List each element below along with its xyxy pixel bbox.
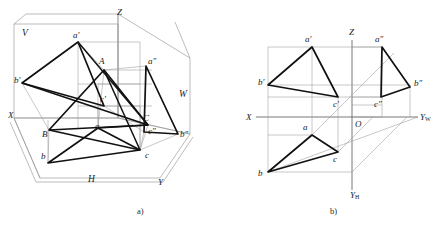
label-axis-x-b: X xyxy=(245,112,252,122)
label-axis-yh-b: YH xyxy=(350,190,360,201)
connector-B-to-c-top xyxy=(49,130,140,150)
label-axis-z-b: Z xyxy=(349,27,355,37)
connector-b-front-to-C xyxy=(22,83,148,125)
label-point-b-side-a: b″ xyxy=(180,129,189,139)
label-plane-h: H xyxy=(87,174,96,184)
label-point-A-space: A xyxy=(98,56,105,66)
label-point-c-top-b: c xyxy=(333,154,337,164)
label-point-c-side-b: c″ xyxy=(374,99,382,109)
caption-a: a) xyxy=(137,206,144,216)
label-point-a-front-b: a′ xyxy=(305,34,313,44)
technical-drawing-canvas: X Y Z V W H A B C a′ b′ c′ a b c a″ xyxy=(0,0,442,236)
label-point-b-front-a: b′ xyxy=(14,75,22,85)
label-origin-o: O xyxy=(355,119,362,129)
label-plane-w: W xyxy=(179,89,188,99)
panel-b-point-labels: a′ b′ c′ a″ b″ c″ a b c xyxy=(258,34,423,178)
label-point-a-front-a: a′ xyxy=(73,30,81,40)
panel-a-axis-labels: X Y Z xyxy=(7,7,164,187)
label-axis-yh-subscript: H xyxy=(355,195,360,201)
label-point-c-front-a: c′ xyxy=(100,94,107,104)
label-axis-yw-b: YW xyxy=(420,112,431,123)
label-axis-x-a: X xyxy=(7,110,14,120)
label-point-C-space: C xyxy=(143,113,150,123)
label-point-c-front-b: c′ xyxy=(333,99,340,109)
caption-b: b) xyxy=(330,206,337,216)
label-point-b-top-b: b xyxy=(258,168,263,178)
plane-w-edge-top xyxy=(175,22,190,58)
triangle-side-projection-b xyxy=(381,47,410,97)
label-point-B-space: B xyxy=(42,129,48,139)
label-point-b-top-a: b xyxy=(41,151,46,161)
label-point-c-side-a: c″ xyxy=(148,126,156,136)
label-axis-yw-subscript: W xyxy=(425,117,431,123)
figure-root: X Y Z V W H A B C a′ b′ c′ a b c a″ xyxy=(0,0,442,236)
label-axis-z-a: Z xyxy=(117,7,123,17)
label-point-c-top-a: c xyxy=(145,150,149,160)
plane-h-edge-left xyxy=(14,118,40,178)
label-point-b-front-b: b′ xyxy=(258,77,266,87)
projector-depth-c xyxy=(104,106,144,132)
label-point-b-side-b: b″ xyxy=(414,78,423,88)
plane-v-chamfer xyxy=(14,14,118,24)
figure-captions: a) b) xyxy=(137,206,337,216)
triangle-front-projection-b xyxy=(268,47,338,97)
panel-a-axonometric: X Y Z V W H A B C a′ b′ c′ a b c a″ xyxy=(7,7,193,187)
plane-h-outer-border xyxy=(10,122,193,182)
label-point-a-top-b: a xyxy=(303,122,308,132)
label-point-a-top-a: a xyxy=(95,121,100,131)
panel-b-orthographic: X Z YW YH O a′ b′ c′ a″ b″ c″ a b xyxy=(245,27,431,201)
label-plane-v: V xyxy=(22,28,29,38)
projector-b-side xyxy=(140,134,178,150)
label-point-a-side-a: a″ xyxy=(148,56,157,66)
triangle-side-projection-a xyxy=(144,66,178,134)
projector-depth-a2 xyxy=(104,66,146,70)
bisector-b xyxy=(268,117,418,172)
triangle-top-projection-b xyxy=(268,135,338,172)
label-point-a-side-b: a″ xyxy=(375,34,384,44)
